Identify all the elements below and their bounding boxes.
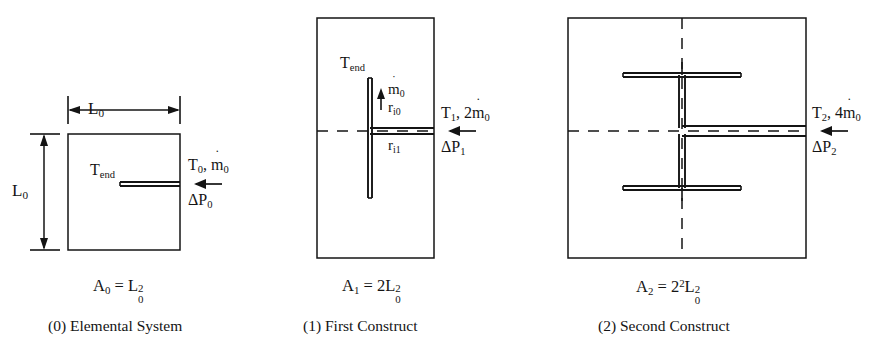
panel1-outlet-label-flow: T1, 2˙m0 (441, 105, 490, 124)
panel0-outlet-label-flow: T0, ˙m0 (188, 157, 229, 176)
panel1-flow-arrowhead (377, 88, 385, 99)
panel0-channel (120, 182, 180, 186)
panel1-ri1-label: ri1 (388, 138, 401, 155)
diagram-geometry (0, 0, 881, 354)
panel0-dimension-label-horizontal: L0 (88, 100, 104, 119)
panel0-t-end-label: Tend (90, 162, 115, 181)
panel2-caption: (2) Second Construct (598, 318, 730, 334)
figure-canvas: L0 L0 Tend T0, ˙m0 ΔP0 A0 = L20 (0) Elem… (0, 0, 881, 354)
panel2-area-equation: A2 = 22L20 (636, 278, 703, 297)
panel0-vertical-dimension (30, 134, 60, 250)
panel1-vertical-channel (368, 78, 372, 198)
panel2-outlet-label-pressure: ΔP2 (812, 139, 836, 158)
panel1-outlet-label-pressure: ΔP1 (441, 139, 465, 158)
panel1-mdot0-label: ˙m0 (388, 82, 405, 99)
panel0-dim-arrow-left (68, 106, 80, 114)
panel0-outlet-label-pressure: ΔP0 (188, 192, 212, 211)
panel1-outlet-arrowhead (448, 126, 460, 136)
panel2-box (568, 18, 806, 258)
panel0-box (68, 134, 180, 250)
panel0-horizontal-dimension (68, 96, 180, 124)
panel1-ri0-label: ri0 (388, 100, 401, 117)
panel0-dim-arrow-bottom (40, 238, 48, 250)
panel0-outlet-arrowhead (194, 179, 206, 189)
panel2-outlet-label-flow: T2, 4˙m0 (812, 105, 861, 124)
panel2-outlet-trunk-channel (682, 126, 806, 136)
panel1-caption: (1) First Construct (303, 318, 418, 334)
panel1-box (317, 18, 434, 258)
panel0-dim-arrow-top (40, 134, 48, 146)
panel0-dimension-label-vertical: L0 (12, 182, 28, 201)
panel2-outlet-arrowhead (820, 126, 832, 136)
panel1-t-end-label: Tend (340, 55, 365, 74)
panel0-caption: (0) Elemental System (48, 318, 182, 334)
panel1-area-equation: A1 = 2L20 (342, 278, 404, 296)
panel0-dim-arrow-right (168, 106, 180, 114)
panel0-area-equation: A0 = L20 (93, 278, 147, 296)
